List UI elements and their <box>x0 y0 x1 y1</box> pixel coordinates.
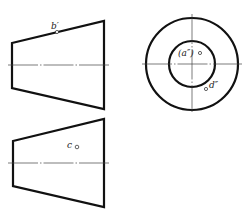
point-d-double-prime-marker <box>204 87 207 90</box>
label-c: c <box>67 140 72 150</box>
top-view: c <box>8 119 110 207</box>
projection-drawing: b′ (a″) d″ c <box>0 0 251 213</box>
label-d-double-prime: d″ <box>209 80 219 90</box>
label-b-prime: b′ <box>51 21 59 31</box>
side-view: (a″) d″ <box>142 14 242 112</box>
front-view: b′ <box>8 21 110 109</box>
label-a-double-prime: (a″) <box>178 48 194 58</box>
point-a-double-prime-marker <box>198 51 201 54</box>
point-c-marker <box>75 145 79 149</box>
